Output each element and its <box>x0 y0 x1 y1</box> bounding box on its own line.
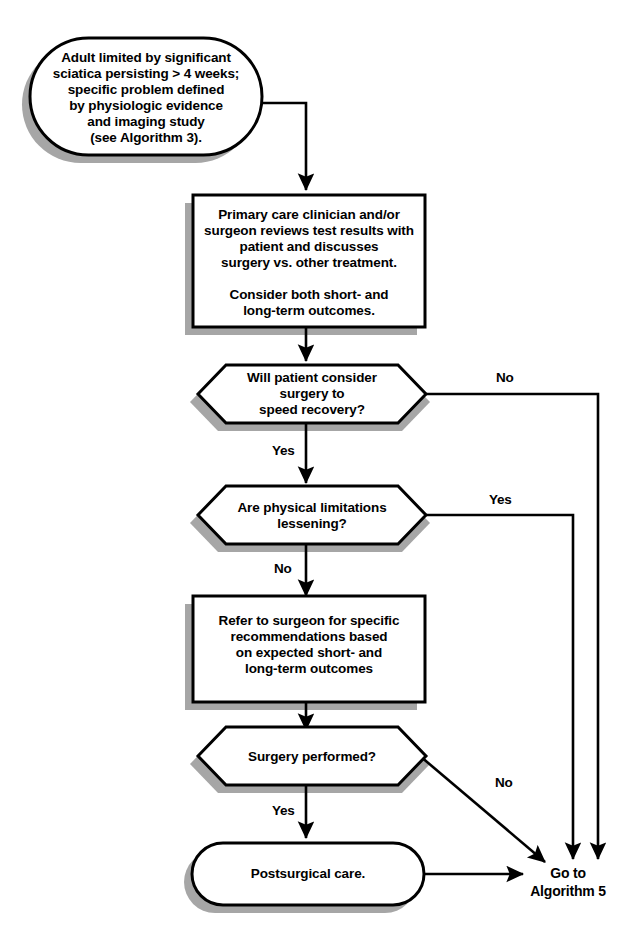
consider-surgery-decision-shape[interactable] <box>198 365 426 423</box>
flowchart-canvas <box>0 0 633 950</box>
edge-label-consider-no: No <box>496 370 514 385</box>
limitations-decision-shape[interactable] <box>198 486 426 544</box>
edge-limitations-yes <box>420 515 573 859</box>
edge-start-to-review <box>262 103 306 190</box>
edge-label-limitations-yes: Yes <box>489 492 512 507</box>
postsurgical-terminal-shape[interactable] <box>192 843 424 905</box>
edge-label-surgery-yes: Yes <box>272 803 295 818</box>
flowchart-page: Adult limited by significant sciatica pe… <box>0 0 633 950</box>
edge-label-consider-yes: Yes <box>272 443 295 458</box>
edge-label-limitations-no: No <box>274 561 292 576</box>
edge-surgery-no <box>420 756 545 862</box>
node-shape-layer <box>30 38 426 905</box>
refer-process-shape[interactable] <box>193 596 425 702</box>
review-process-shape[interactable] <box>193 195 425 327</box>
start-terminal-shape[interactable] <box>30 38 262 155</box>
surgery-performed-decision-shape[interactable] <box>198 727 426 785</box>
edge-label-surgery-no: No <box>495 775 513 790</box>
goto-algorithm-label: Go to Algorithm 5 <box>508 865 628 900</box>
